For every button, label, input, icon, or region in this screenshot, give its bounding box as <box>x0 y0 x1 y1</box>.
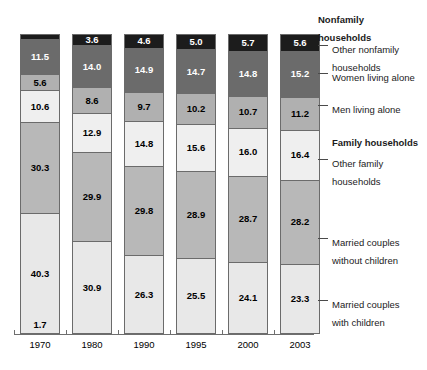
segment-women-alone[interactable]: 11.5 <box>20 39 60 74</box>
x-axis-label-1995: 1995 <box>176 340 216 350</box>
segment-other-family[interactable]: 15.6 <box>176 124 216 171</box>
segment-value: 14.9 <box>125 66 163 76</box>
segment-men-alone[interactable]: 10.7 <box>228 96 268 128</box>
segment-value: 14.0 <box>73 62 111 72</box>
segment-married-with-children[interactable]: 25.5 <box>176 258 216 335</box>
axis-tick <box>170 330 171 335</box>
bar-1980: 3.6 14.0 8.6 12.9 29.9 30.9 <box>72 34 112 334</box>
segment-married-with-children[interactable]: 26.3 <box>124 255 164 334</box>
segment-other-nonfamily[interactable]: 5.6 <box>280 34 320 51</box>
legend-label: Other family households <box>332 158 383 187</box>
legend-item-other-family-households[interactable]: Other family households <box>332 153 383 189</box>
segment-value: 16.0 <box>229 147 267 157</box>
segment-value: 5.6 <box>21 78 59 88</box>
segment-women-alone[interactable]: 14.7 <box>176 49 216 93</box>
x-axis-label-1990: 1990 <box>124 340 164 350</box>
segment-other-family[interactable]: 16.4 <box>280 130 320 179</box>
segment-married-without-children[interactable]: 29.9 <box>72 152 112 242</box>
segment-married-with-children[interactable]: 23.3 <box>280 264 320 334</box>
segment-value: 16.4 <box>281 151 319 161</box>
bar-2000: 5.7 14.8 10.7 16.0 28.7 24.1 <box>228 34 268 334</box>
legend-item-women-living-alone[interactable]: Women living alone <box>332 67 415 85</box>
segment-married-with-children[interactable]: 24.1 <box>228 262 268 334</box>
segment-other-family[interactable]: 16.0 <box>228 128 268 176</box>
segment-married-with-children[interactable]: 30.9 <box>72 241 112 334</box>
segment-men-alone[interactable]: 11.2 <box>280 97 320 131</box>
segment-married-without-children[interactable]: 29.8 <box>124 166 164 255</box>
segment-value: 4.6 <box>125 36 163 46</box>
axis-tick <box>222 330 223 335</box>
segment-value: 25.5 <box>177 291 215 301</box>
segment-men-alone[interactable]: 9.7 <box>124 92 164 121</box>
segment-value: 14.7 <box>177 67 215 77</box>
segment-value: 14.8 <box>229 69 267 79</box>
stacked-bar-chart: 11.5 5.6 10.6 30.3 40.3 1.7 <box>0 0 427 370</box>
segment-value-outside-1970: 1.7 <box>20 320 60 330</box>
segment-other-family[interactable]: 12.9 <box>72 113 112 152</box>
bar-1970: 11.5 5.6 10.6 30.3 40.3 <box>20 34 60 334</box>
segment-men-alone[interactable]: 8.6 <box>72 87 112 113</box>
segment-value: 10.2 <box>177 104 215 114</box>
legend-item-men-living-alone[interactable]: Men living alone <box>332 99 401 117</box>
legend-leader-line <box>318 45 328 46</box>
segment-value: 12.9 <box>73 128 111 138</box>
segment-value: 11.5 <box>21 52 59 62</box>
segment-value: 10.7 <box>229 107 267 117</box>
x-axis-line <box>14 334 314 335</box>
legend: Nonfamily households Other nonfamily hou… <box>318 0 427 370</box>
segment-women-alone[interactable]: 15.2 <box>280 51 320 97</box>
bar-2003: 5.6 15.2 11.2 16.4 28.2 23.3 <box>280 34 320 334</box>
x-axis-label-2003: 2003 <box>280 340 320 350</box>
segment-other-nonfamily[interactable]: 3.6 <box>72 34 112 45</box>
axis-tick <box>118 330 119 335</box>
bar-1990: 4.6 14.9 9.7 14.8 29.8 26.3 <box>124 34 164 334</box>
segment-value: 29.9 <box>73 192 111 202</box>
segment-married-without-children[interactable]: 28.7 <box>228 176 268 262</box>
plot-area: 11.5 5.6 10.6 30.3 40.3 1.7 <box>14 18 314 335</box>
segment-other-nonfamily[interactable]: 5.7 <box>228 34 268 51</box>
segment-value: 5.7 <box>229 38 267 48</box>
segment-women-alone[interactable]: 14.9 <box>124 48 164 93</box>
x-axis-label-2000: 2000 <box>228 340 268 350</box>
legend-item-married-couples-without-children[interactable]: Married couples without children <box>332 232 400 268</box>
axis-tick <box>274 330 275 335</box>
segment-other-family[interactable]: 14.8 <box>124 121 164 165</box>
segment-value: 11.2 <box>281 109 319 119</box>
bar-1995: 5.0 14.7 10.2 15.6 28.9 25.5 <box>176 34 216 334</box>
legend-leader-line <box>318 105 328 106</box>
segment-value: 15.6 <box>177 143 215 153</box>
legend-leader-line <box>318 300 328 301</box>
legend-leader-line <box>318 159 328 160</box>
legend-leader-line <box>318 238 328 239</box>
axis-tick <box>66 330 67 335</box>
segment-value: 3.6 <box>73 35 111 45</box>
segment-men-alone[interactable]: 10.2 <box>176 93 216 124</box>
legend-label: Women living alone <box>332 72 415 83</box>
segment-value: 29.8 <box>125 206 163 216</box>
segment-women-alone[interactable]: 14.8 <box>228 51 268 95</box>
segment-men-alone[interactable]: 5.6 <box>20 74 60 91</box>
legend-label: Men living alone <box>332 104 401 115</box>
legend-item-married-couples-with-children[interactable]: Married couples with children <box>332 294 400 330</box>
segment-other-nonfamily[interactable]: 5.0 <box>176 34 216 49</box>
x-axis-label-1980: 1980 <box>72 340 112 350</box>
legend-label: Married couples with children <box>332 299 400 328</box>
legend-label: Family households <box>332 137 418 148</box>
segment-married-without-children[interactable]: 30.3 <box>20 122 60 213</box>
segment-value: 40.3 <box>21 269 59 279</box>
segment-value: 8.6 <box>73 96 111 106</box>
segment-value: 28.9 <box>177 210 215 220</box>
segment-value: 30.3 <box>21 163 59 173</box>
segment-value: 5.0 <box>177 38 215 48</box>
segment-other-family[interactable]: 10.6 <box>20 90 60 122</box>
segment-women-alone[interactable]: 14.0 <box>72 45 112 87</box>
segment-married-with-children[interactable]: 40.3 <box>20 213 60 334</box>
segment-value: 15.2 <box>281 70 319 80</box>
segment-value: 30.9 <box>73 283 111 293</box>
segment-value: 9.7 <box>125 103 163 113</box>
segment-other-nonfamily[interactable]: 4.6 <box>124 34 164 48</box>
legend-group-family-households: Family households <box>332 132 418 150</box>
segment-married-without-children[interactable]: 28.2 <box>280 180 320 265</box>
segment-value: 14.8 <box>125 139 163 149</box>
segment-married-without-children[interactable]: 28.9 <box>176 171 216 258</box>
